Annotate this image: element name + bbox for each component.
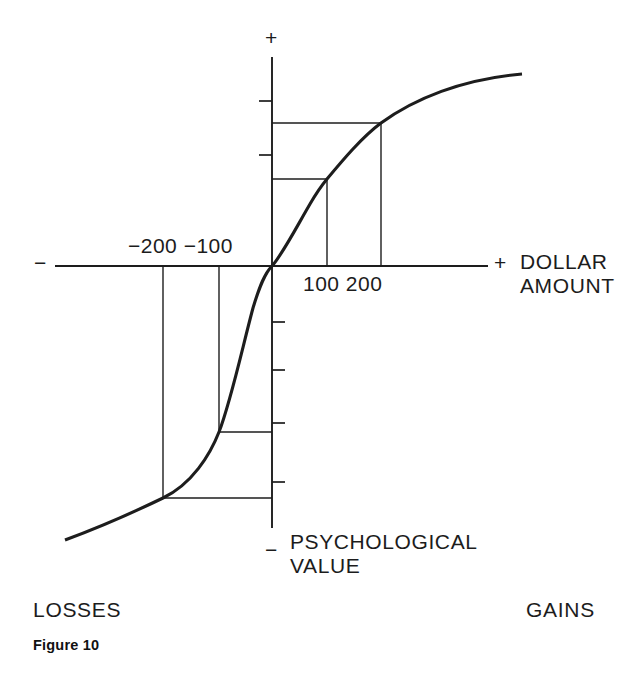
figure-container: + − − + −200 −100 100 200 DOLLARAMOUNT P… bbox=[0, 0, 643, 682]
gains-region-label: GAINS bbox=[526, 598, 595, 622]
y-axis-positive-sign: + bbox=[265, 26, 277, 50]
x-axis-title: DOLLARAMOUNT bbox=[520, 250, 615, 297]
y-axis-negative-sign: − bbox=[265, 538, 277, 562]
y-axis-title: PSYCHOLOGICALVALUE bbox=[290, 530, 478, 577]
value-function-chart bbox=[0, 0, 643, 682]
x-axis-positive-sign: + bbox=[494, 251, 506, 275]
value-function-curve bbox=[65, 74, 522, 540]
x-axis-title-line1: DOLLAR bbox=[520, 250, 608, 273]
figure-caption: Figure 10 bbox=[33, 637, 99, 653]
losses-region-label: LOSSES bbox=[33, 598, 121, 622]
x-axis-title-line2: AMOUNT bbox=[520, 274, 615, 297]
y-axis-title-line2: VALUE bbox=[290, 554, 360, 577]
x-axis-positive-tick-labels: 100 200 bbox=[303, 272, 382, 296]
y-axis-title-line1: PSYCHOLOGICAL bbox=[290, 530, 478, 553]
x-axis-negative-sign: − bbox=[34, 251, 46, 275]
x-axis-negative-tick-labels: −200 −100 bbox=[128, 234, 233, 258]
